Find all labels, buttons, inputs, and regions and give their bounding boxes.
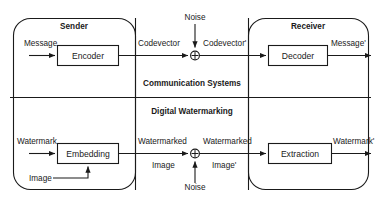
group-label-receiver: Receiver [291,22,326,31]
bottom-mid-label-watermarked-image-line1: Watermarked [138,137,187,146]
diagram-canvas: Sender Receiver Communication Systems Di… [0,0,381,199]
process-label-embedding: Embedding [66,149,110,159]
bottom-adder-plus-in-circle-icon [191,149,200,158]
diagram-svg: Sender Receiver Communication Systems Di… [0,0,381,199]
top-input-label-message: Message [24,39,58,48]
process-label-decoder: Decoder [282,51,315,61]
section-title-digital-watermarking: Digital Watermarking [151,107,233,116]
top-output-label-message-prime: Message' [331,39,366,48]
process-label-extraction: Extraction [281,149,319,159]
top-mid-label-codevector: Codevector [138,39,180,48]
bottom-mid-label-watermarked-image-prime-line2: Image' [212,161,237,170]
section-title-communication-systems: Communication Systems [143,79,241,88]
bottom-output-label-watermark-prime: Watermark' [333,137,375,146]
process-label-encoder: Encoder [72,51,104,61]
bottom-input-label-image: Image [29,174,52,183]
bottom-mid-label-watermarked-image-prime-line1: Watermarked [203,137,252,146]
top-adder-plus-in-circle-icon [191,51,200,60]
top-noise-label: Noise [185,13,206,22]
bottom-noise-label: Noise [185,183,206,192]
top-mid-label-codevector-prime: Codevector' [203,39,247,48]
bottom-mid-label-watermarked-image-line2: Image [152,161,175,170]
bottom-arrow-image-to-embedding [53,167,88,179]
group-label-sender: Sender [60,22,89,31]
bottom-input-label-watermark: Watermark [17,137,58,146]
